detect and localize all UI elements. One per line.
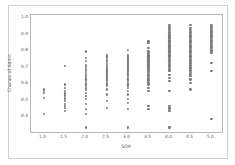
data-point <box>189 75 191 77</box>
x-tick-label: 4.0 <box>165 135 172 139</box>
data-point <box>84 92 86 94</box>
data-point <box>105 85 107 87</box>
data-point <box>168 70 170 72</box>
data-point <box>147 42 149 44</box>
data-point <box>84 98 86 100</box>
y-tick-label: 0.5 <box>21 98 28 102</box>
y-tick-label: 0.8 <box>21 48 28 52</box>
data-point <box>126 93 128 95</box>
x-tick-label: 1.0 <box>39 135 46 139</box>
y-tick-label: 0.9 <box>21 32 28 36</box>
data-point <box>168 110 170 112</box>
data-point <box>168 73 170 75</box>
data-point <box>189 88 191 90</box>
data-point <box>84 95 86 97</box>
data-point <box>84 103 86 105</box>
data-point <box>126 102 128 104</box>
y-tick-label: 0.4 <box>21 114 28 118</box>
data-point <box>63 65 65 67</box>
data-point <box>42 92 44 94</box>
data-point <box>84 60 86 62</box>
data-point <box>126 126 128 128</box>
data-point <box>42 113 44 115</box>
x-tick-label: 3.0 <box>123 135 130 139</box>
x-axis-title: SOP <box>121 144 130 149</box>
data-point <box>84 50 86 52</box>
data-point <box>189 82 191 84</box>
data-point <box>42 97 44 99</box>
data-point <box>168 90 170 92</box>
data-point <box>189 24 191 26</box>
x-tick-label: 3.5 <box>144 135 151 139</box>
plot-area <box>30 14 223 133</box>
data-point <box>210 118 212 120</box>
data-point <box>105 100 107 102</box>
data-point <box>210 52 212 54</box>
data-point <box>147 90 149 92</box>
data-point <box>189 78 191 80</box>
data-point <box>105 93 107 95</box>
data-point <box>63 83 65 85</box>
x-tick-label: 1.5 <box>60 135 67 139</box>
data-point <box>126 108 128 110</box>
data-point <box>84 88 86 90</box>
x-tick-label: 2.5 <box>102 135 109 139</box>
data-point <box>210 70 212 72</box>
y-axis-tick-labels: 0.40.50.60.70.80.91.0 <box>0 14 28 133</box>
y-tick-label: 0.7 <box>21 65 28 69</box>
x-tick-label: 2.0 <box>81 135 88 139</box>
data-point <box>63 87 65 89</box>
data-point <box>105 106 107 108</box>
y-tick-label: 1.0 <box>21 15 28 19</box>
data-point <box>63 110 65 112</box>
scatter-chart-figure: 0.40.50.60.70.80.91.0 1.01.52.02.53.03.5… <box>0 0 235 165</box>
data-point <box>84 113 86 115</box>
data-point <box>126 98 128 100</box>
x-tick-label: 5.0 <box>207 135 214 139</box>
data-point <box>63 106 65 108</box>
data-point <box>126 90 128 92</box>
data-point <box>126 87 128 89</box>
data-point <box>168 126 170 128</box>
data-point <box>84 57 86 59</box>
data-point <box>147 87 149 89</box>
data-point <box>126 49 128 51</box>
data-points-layer <box>31 15 222 132</box>
data-point <box>84 126 86 128</box>
data-point <box>105 88 107 90</box>
data-point <box>168 77 170 79</box>
data-point <box>63 100 65 102</box>
x-tick-label: 4.5 <box>186 135 193 139</box>
y-axis-title: Chance of Admit <box>7 54 12 92</box>
data-point <box>210 62 212 64</box>
data-point <box>147 105 149 107</box>
data-point <box>147 108 149 110</box>
data-point <box>84 108 86 110</box>
y-tick-label: 0.6 <box>21 81 28 85</box>
data-point <box>147 47 149 49</box>
data-point <box>147 83 149 85</box>
data-point <box>168 80 170 82</box>
